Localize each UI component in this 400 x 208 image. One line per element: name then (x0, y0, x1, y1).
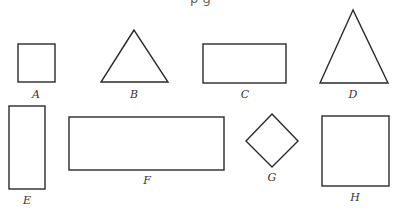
shape-d-triangle (320, 10, 388, 83)
shape-g-rhombus (246, 114, 298, 167)
shapes-diagram: p g A B C D E F G H (0, 0, 400, 208)
label-g: G (262, 171, 282, 184)
shape-a-square (18, 44, 55, 82)
label-b: B (124, 88, 144, 101)
shape-h-square (322, 116, 389, 186)
label-d: D (343, 88, 363, 101)
shapes-svg (0, 0, 400, 208)
shape-e-rectangle (9, 106, 45, 189)
label-e: E (17, 194, 37, 207)
label-h: H (345, 191, 365, 204)
label-a: A (26, 88, 46, 101)
shape-c-rectangle (203, 44, 286, 83)
label-c: C (235, 88, 255, 101)
label-f: F (137, 174, 157, 187)
shape-b-triangle (101, 30, 168, 82)
shape-f-rectangle (69, 117, 224, 170)
